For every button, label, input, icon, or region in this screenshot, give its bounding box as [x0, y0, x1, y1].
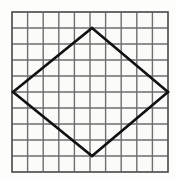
figure-canvas [0, 0, 176, 179]
grid-diamond-figure [0, 0, 176, 179]
